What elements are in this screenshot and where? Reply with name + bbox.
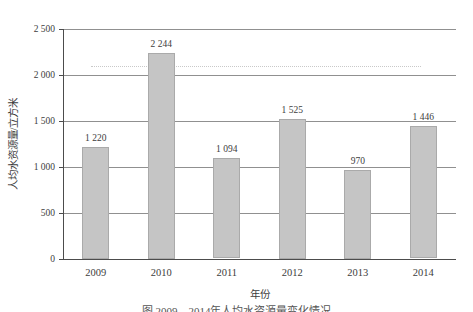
- plot-area: 05001 0001 5002 0002 5001 22020092 24420…: [0, 0, 473, 312]
- y-tick-label: 2 500: [5, 24, 55, 34]
- bar-value-label: 970: [328, 156, 388, 166]
- reference-dotted-line: [91, 66, 421, 67]
- bar-value-label: 1 525: [262, 105, 322, 115]
- bar-value-label: 1 220: [66, 133, 126, 143]
- x-category-label: 2010: [131, 267, 191, 278]
- x-category-label: 2012: [262, 267, 322, 278]
- x-category-label: 2011: [197, 267, 257, 278]
- y-tick-label: 2 000: [5, 70, 55, 80]
- bar: [82, 147, 109, 259]
- figure-caption: 图 2009—2014年人均水资源量变化情况: [0, 305, 473, 312]
- y-tick-label: 500: [5, 208, 55, 218]
- gridline: [63, 75, 456, 76]
- bar: [344, 170, 371, 259]
- x-axis-title: 年份: [63, 286, 456, 301]
- gridline: [63, 167, 456, 168]
- x-axis-line: [63, 259, 456, 260]
- bar-chart: 人均水资源量/立方米 05001 0001 5002 0002 5001 220…: [0, 0, 473, 312]
- bar: [279, 119, 306, 259]
- bar-value-label: 1 446: [393, 112, 453, 122]
- bar: [213, 158, 240, 258]
- bar: [410, 126, 437, 259]
- gridline: [63, 213, 456, 214]
- bar: [148, 53, 175, 259]
- x-category-label: 2013: [328, 267, 388, 278]
- gridline: [63, 29, 456, 30]
- x-category-label: 2009: [66, 267, 126, 278]
- y-tick-label: 1 000: [5, 162, 55, 172]
- bar-value-label: 1 094: [197, 144, 257, 154]
- y-tick-label: 1 500: [5, 116, 55, 126]
- y-tick-label: 0: [5, 254, 55, 264]
- x-category-label: 2014: [393, 267, 453, 278]
- bar-value-label: 2 244: [131, 39, 191, 49]
- y-axis-line: [63, 29, 64, 259]
